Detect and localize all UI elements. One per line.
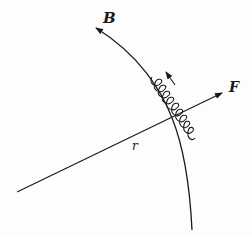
diagram-canvas: B F r xyxy=(0,0,252,237)
radius-label-r: r xyxy=(132,140,138,152)
force-label-f: F xyxy=(229,80,239,94)
helical-particle-path xyxy=(151,77,195,140)
field-label-b: B xyxy=(103,11,116,26)
magnetic-field-line xyxy=(96,28,192,230)
diagram-svg xyxy=(0,0,252,237)
radial-line xyxy=(17,93,222,192)
motion-direction-arrow xyxy=(166,72,175,85)
